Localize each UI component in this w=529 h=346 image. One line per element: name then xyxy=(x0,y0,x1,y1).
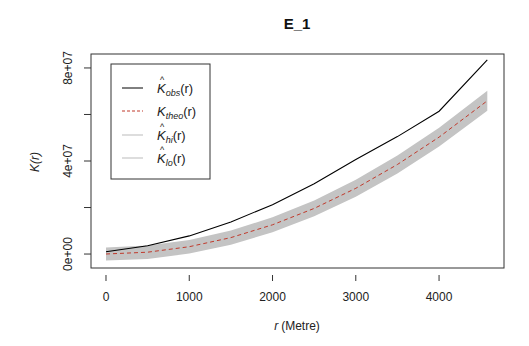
y-axis-label: K(r) xyxy=(28,152,42,172)
x-axis-label: r(Metre) xyxy=(274,319,320,333)
x-tick-label: 3000 xyxy=(342,290,369,304)
chart-title: E_1 xyxy=(284,15,311,32)
y-tick-label: 4e+07 xyxy=(61,144,75,178)
x-tick-label: 1000 xyxy=(176,290,203,304)
x-tick-label: 0 xyxy=(103,290,110,304)
x-axis-label-var: r xyxy=(274,319,279,333)
legend: Kobs(r)^Ktheo(r)Khi(r)^Klo(r)^ xyxy=(111,64,210,179)
x-axis: 01000200030004000 xyxy=(103,275,453,304)
x-tick-label: 2000 xyxy=(259,290,286,304)
y-tick-label: 8e+07 xyxy=(61,51,75,85)
chart: E_1 01000200030004000 0e+004e+078e+07 r(… xyxy=(0,0,529,346)
x-tick-label: 4000 xyxy=(426,290,453,304)
x-axis-label-unit: (Metre) xyxy=(281,319,320,333)
y-tick-label: 0e+00 xyxy=(61,237,75,271)
y-axis: 0e+004e+078e+07 xyxy=(61,51,91,271)
